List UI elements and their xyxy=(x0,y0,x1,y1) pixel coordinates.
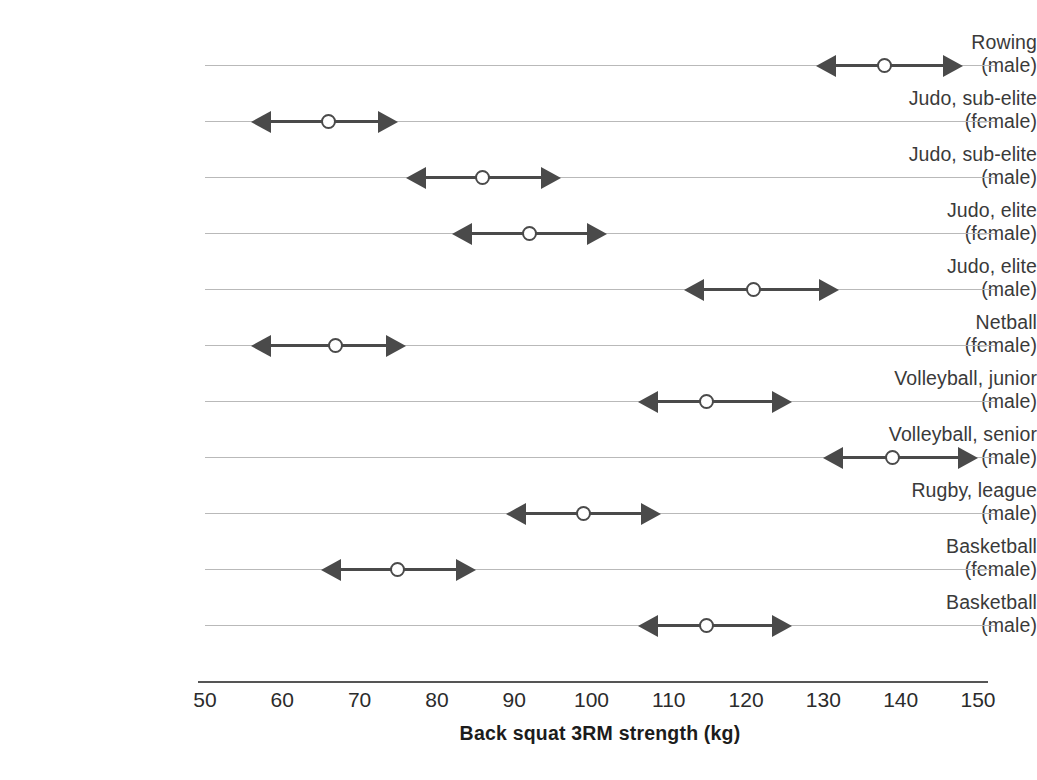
arrowhead-right-icon xyxy=(958,447,978,469)
range-line-right xyxy=(398,568,457,571)
data-row xyxy=(205,556,995,582)
mean-marker xyxy=(576,506,591,521)
range-line-right xyxy=(754,288,821,291)
x-tick-label: 70 xyxy=(330,688,390,712)
range-line-left xyxy=(524,512,583,515)
data-row xyxy=(205,332,995,358)
data-row xyxy=(205,220,995,246)
x-tick-label: 130 xyxy=(793,688,853,712)
x-tick-label: 120 xyxy=(716,688,776,712)
arrowhead-left-icon xyxy=(251,111,271,133)
range-line-right xyxy=(893,456,960,459)
data-row xyxy=(205,500,995,526)
mean-marker xyxy=(522,226,537,241)
range-line-right xyxy=(336,344,388,347)
data-row xyxy=(205,388,995,414)
x-tick-label: 110 xyxy=(639,688,699,712)
x-axis-title: Back squat 3RM strength (kg) xyxy=(205,722,995,745)
data-row xyxy=(205,612,995,638)
mean-marker xyxy=(699,394,714,409)
arrowhead-left-icon xyxy=(638,391,658,413)
data-row xyxy=(205,444,995,470)
mean-marker xyxy=(885,450,900,465)
arrowhead-right-icon xyxy=(772,391,792,413)
data-row xyxy=(205,52,995,78)
range-line-right xyxy=(530,232,589,235)
arrowhead-right-icon xyxy=(819,279,839,301)
range-line-right xyxy=(707,624,774,627)
x-tick-label: 60 xyxy=(252,688,312,712)
chart-container: Rowing(male)Judo, sub-elite(female)Judo,… xyxy=(0,0,1037,780)
arrowhead-right-icon xyxy=(943,55,963,77)
x-tick-label: 150 xyxy=(948,688,1008,712)
data-row xyxy=(205,276,995,302)
arrowhead-left-icon xyxy=(452,223,472,245)
data-row xyxy=(205,164,995,190)
mean-marker xyxy=(746,282,761,297)
arrowhead-right-icon xyxy=(386,335,406,357)
data-row xyxy=(205,108,995,134)
range-line-right xyxy=(329,120,381,123)
x-tick-label: 140 xyxy=(871,688,931,712)
x-tick-label: 90 xyxy=(484,688,544,712)
arrowhead-right-icon xyxy=(587,223,607,245)
mean-marker xyxy=(328,338,343,353)
arrowhead-left-icon xyxy=(816,55,836,77)
range-line-right xyxy=(483,176,542,179)
range-line-left xyxy=(269,344,336,347)
plot-area xyxy=(205,0,995,700)
arrowhead-right-icon xyxy=(772,615,792,637)
x-tick-label: 100 xyxy=(562,688,622,712)
arrowhead-left-icon xyxy=(321,559,341,581)
x-tick-label: 50 xyxy=(175,688,235,712)
mean-marker xyxy=(699,618,714,633)
arrowhead-right-icon xyxy=(378,111,398,133)
mean-marker xyxy=(475,170,490,185)
mean-marker xyxy=(877,58,892,73)
arrowhead-right-icon xyxy=(456,559,476,581)
x-tick-label: 80 xyxy=(407,688,467,712)
range-line-right xyxy=(885,64,944,67)
range-line-left xyxy=(470,232,529,235)
mean-marker xyxy=(390,562,405,577)
arrowhead-left-icon xyxy=(251,335,271,357)
arrowhead-left-icon xyxy=(684,279,704,301)
x-axis-line xyxy=(198,681,988,683)
arrowhead-right-icon xyxy=(541,167,561,189)
arrowhead-right-icon xyxy=(641,503,661,525)
arrowhead-left-icon xyxy=(506,503,526,525)
mean-marker xyxy=(321,114,336,129)
arrowhead-left-icon xyxy=(406,167,426,189)
range-line-right xyxy=(707,400,774,403)
arrowhead-left-icon xyxy=(638,615,658,637)
arrowhead-left-icon xyxy=(823,447,843,469)
range-line-right xyxy=(584,512,643,515)
range-line-left xyxy=(269,120,328,123)
